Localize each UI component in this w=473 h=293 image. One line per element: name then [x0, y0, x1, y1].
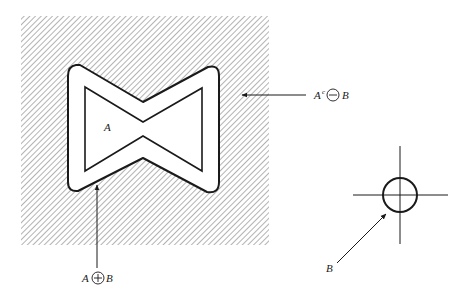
complement-erosion-label: A c B [313, 88, 349, 101]
svg-text:B: B [342, 89, 349, 101]
structuring-element-arrow [337, 214, 386, 263]
dilation-label: A B [81, 272, 113, 284]
svg-text:A: A [313, 89, 321, 101]
morphology-diagram: A A B A c B B [0, 0, 473, 293]
set-a-label: A [103, 121, 111, 133]
structuring-element-label: B [326, 262, 333, 274]
svg-text:c: c [322, 88, 326, 96]
svg-text:A: A [81, 272, 89, 284]
structuring-element-b [353, 146, 448, 244]
svg-text:B: B [106, 272, 113, 284]
